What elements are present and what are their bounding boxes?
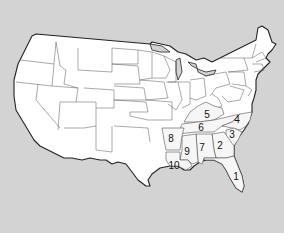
- region-label-10: 10: [168, 161, 179, 171]
- region-label-7: 7: [199, 143, 205, 153]
- region-label-8: 8: [168, 134, 174, 144]
- region-label-1: 1: [233, 172, 239, 182]
- region-label-9: 9: [184, 147, 190, 157]
- us-map: [0, 0, 292, 241]
- region-label-2: 2: [217, 141, 223, 151]
- region-label-3: 3: [229, 130, 235, 140]
- region-label-6: 6: [198, 123, 204, 133]
- region-label-4: 4: [234, 115, 240, 125]
- region-label-5: 5: [204, 110, 210, 120]
